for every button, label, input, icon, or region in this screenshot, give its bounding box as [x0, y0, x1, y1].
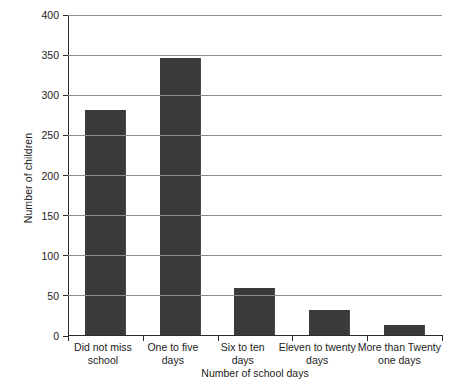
x-axis-category-label-line: days	[279, 354, 356, 367]
x-axis-category-label-line: Eleven to twenty	[279, 341, 356, 354]
x-axis-category-label-line: days	[209, 354, 277, 367]
x-axis-category-label: Eleven to twentydays	[278, 341, 357, 366]
y-axis-tick	[63, 255, 68, 256]
gridline	[68, 295, 442, 296]
y-axis-tick	[63, 15, 68, 16]
x-axis-title: Number of school days	[68, 367, 442, 379]
gridline	[68, 255, 442, 256]
bar[interactable]	[160, 58, 201, 335]
x-axis-category-label-line: days	[139, 354, 207, 367]
y-axis-title: Number of children	[22, 103, 34, 253]
x-axis-category-label-line: One to five	[139, 341, 207, 354]
plot-area: 050100150200250300350400	[68, 15, 442, 336]
x-axis-category-label-line: one days	[358, 354, 441, 367]
gridline	[68, 175, 442, 176]
x-axis-category-label: More than Twentyone days	[357, 341, 442, 366]
x-axis-tick	[442, 336, 443, 341]
x-axis-category-label: Did not missschool	[68, 341, 138, 366]
y-axis-tick	[63, 295, 68, 296]
y-axis-tick-label: 200	[41, 170, 59, 182]
bar-chart: Number of children 050100150200250300350…	[0, 0, 458, 387]
x-axis-category-label-line: More than Twenty	[358, 341, 441, 354]
gridline	[68, 15, 442, 16]
y-axis-tick-label: 250	[41, 129, 59, 141]
x-axis-category-label: Six to tendays	[208, 341, 278, 366]
bar[interactable]	[309, 310, 350, 335]
x-axis-category-label-line: Did not miss	[69, 341, 137, 354]
gridline	[68, 135, 442, 136]
y-axis-tick-label: 0	[53, 330, 59, 342]
x-axis-category-label-line: school	[69, 354, 137, 367]
bar[interactable]	[85, 110, 126, 335]
y-axis-tick-label: 350	[41, 49, 59, 61]
x-axis-category-label-line: Six to ten	[209, 341, 277, 354]
x-axis-category-label: One to fivedays	[138, 341, 208, 366]
bar[interactable]	[384, 325, 425, 335]
y-axis-tick	[63, 175, 68, 176]
gridline	[68, 55, 442, 56]
y-axis-tick-label: 400	[41, 9, 59, 21]
y-axis-tick-label: 100	[41, 250, 59, 262]
y-axis-tick-label: 150	[41, 210, 59, 222]
y-axis-tick	[63, 55, 68, 56]
y-axis-tick	[63, 215, 68, 216]
y-axis-tick	[63, 95, 68, 96]
gridline	[68, 95, 442, 96]
gridline	[68, 215, 442, 216]
y-axis-tick-label: 300	[41, 89, 59, 101]
y-axis-tick-label: 50	[47, 290, 59, 302]
x-axis-tick-labels: Did not missschoolOne to fivedaysSix to …	[68, 341, 442, 366]
y-axis-tick	[63, 135, 68, 136]
